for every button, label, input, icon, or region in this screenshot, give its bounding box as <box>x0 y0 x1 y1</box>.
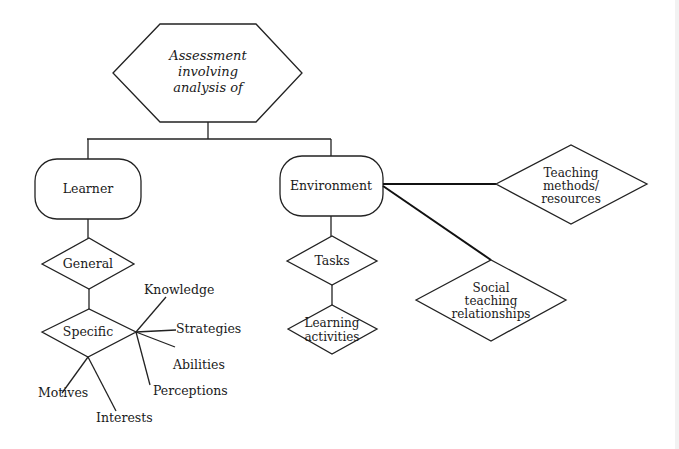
page-edge-strip <box>675 0 679 449</box>
motives-label: Motives <box>38 385 88 400</box>
interests-line <box>88 357 116 411</box>
root-connectors <box>87 122 331 159</box>
root-node-assessment: Assessment involving analysis of <box>113 24 302 122</box>
learner-node: Learner <box>35 159 141 219</box>
learning-activities-node: Learning activities <box>288 305 377 354</box>
tasks-node: Tasks <box>287 236 377 285</box>
root-label-line-2: involving <box>178 64 238 79</box>
specific-aspect-labels: Knowledge Strategies Abilities Perceptio… <box>38 282 241 425</box>
specific-node: Specific <box>42 309 136 357</box>
root-label-line-1: Assessment <box>168 48 247 63</box>
environment-node: Environment <box>280 156 383 216</box>
teaching-methods-node: Teaching methods/ resources <box>496 145 647 224</box>
teaching-methods-label-line-3: resources <box>541 192 601 206</box>
learner-label: Learner <box>63 181 114 196</box>
tasks-label: Tasks <box>314 253 349 268</box>
learning-activities-label-line-1: Learning <box>305 316 360 330</box>
root-label-line-3: analysis of <box>173 80 245 95</box>
strategies-label: Strategies <box>176 321 241 336</box>
teaching-methods-label-line-2: methods/ <box>543 179 600 193</box>
social-teaching-label-line-3: relationships <box>451 307 530 321</box>
environment-label: Environment <box>290 178 372 193</box>
environment-to-social-line <box>383 186 491 260</box>
specific-label: Specific <box>63 324 113 339</box>
general-label: General <box>63 256 113 271</box>
social-teaching-node: Social teaching relationships <box>416 260 566 341</box>
abilities-label: Abilities <box>172 357 225 372</box>
perceptions-line <box>136 332 150 385</box>
interests-label: Interests <box>96 410 153 425</box>
strategies-line <box>136 330 176 332</box>
general-node: General <box>42 238 134 289</box>
teaching-methods-label-line-1: Teaching <box>543 166 598 180</box>
abilities-line <box>136 332 175 347</box>
social-teaching-label-line-1: Social <box>473 281 510 295</box>
social-teaching-label-line-2: teaching <box>465 294 518 308</box>
assessment-diagram: Assessment involving analysis of Learner… <box>0 0 679 449</box>
diagram-canvas: Assessment involving analysis of Learner… <box>0 0 679 449</box>
knowledge-line <box>136 297 166 332</box>
perceptions-label: Perceptions <box>153 383 228 398</box>
learning-activities-label-line-2: activities <box>304 330 359 344</box>
knowledge-label: Knowledge <box>144 282 214 297</box>
